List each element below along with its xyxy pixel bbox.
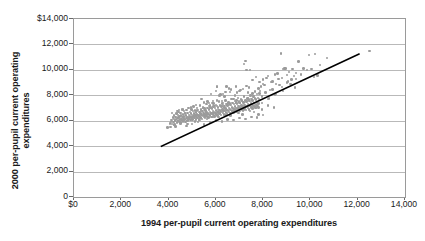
y-tick-label: 6,000	[46, 114, 68, 124]
y-axis-title: 2000 per-pupil current operating expendi…	[0, 0, 42, 241]
x-axis-title: 1994 per-pupil current operating expendi…	[73, 218, 405, 228]
x-tick-label: 6,000	[204, 199, 226, 209]
x-tick-label: 2,000	[110, 199, 132, 209]
y-axis-title-line1: 2000 per-pupil current operating	[10, 52, 20, 190]
y-tick-label: 8,000	[46, 89, 68, 99]
y-tick-label: $14,000	[37, 13, 68, 23]
y-tick-label: 4,000	[46, 140, 68, 150]
x-tick-label: 14,000	[391, 199, 417, 209]
x-tick-label: 8,000	[251, 199, 273, 209]
trend-line	[74, 19, 405, 197]
y-tick-label: 2,000	[46, 165, 68, 175]
x-tick-label: $0	[68, 199, 78, 209]
y-axis-title-line2: expenditures	[21, 93, 31, 149]
plot-area	[73, 18, 406, 198]
x-tick-label: 4,000	[157, 199, 179, 209]
x-tick-label: 10,000	[296, 199, 322, 209]
y-tick-label: 12,000	[42, 38, 68, 48]
y-tick-label: 10,000	[42, 63, 68, 73]
scatter-chart-figure: 2000 per-pupil current operating expendi…	[0, 0, 425, 241]
x-tick-label: 12,000	[344, 199, 370, 209]
